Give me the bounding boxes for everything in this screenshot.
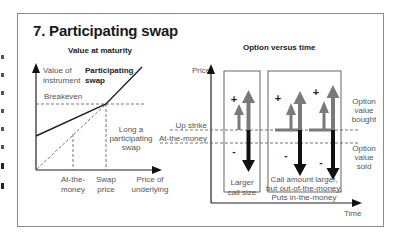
strike-bar	[275, 129, 301, 132]
box1-caption-1: Larger	[230, 178, 253, 187]
annotation-line-1: Long a	[119, 125, 144, 134]
box2-caption-1: Call amount larger,	[270, 175, 337, 184]
option-heading: Option versus time	[243, 43, 316, 52]
bought-arrow-icon	[294, 91, 307, 104]
bought-arrow-icon	[242, 90, 255, 103]
annotation-line-3: swap	[122, 143, 141, 152]
x-tick-atm-2: money	[61, 185, 85, 194]
bought-arrow-icon	[327, 85, 340, 98]
x-axis-arrow-icon	[152, 166, 162, 174]
payoff-chart: Value at maturity Value of instrument Pa…	[32, 46, 168, 194]
x-axis-label-1: Price of	[136, 175, 164, 184]
x-tick-atm-1: At-the-	[61, 175, 85, 184]
x-tick-swap-2: price	[97, 185, 115, 194]
annotation-line-2: participating	[109, 134, 152, 143]
bought-arrow-shaft	[323, 112, 326, 130]
payoff-heading: Value at maturity	[68, 46, 133, 55]
underlying-line	[37, 104, 106, 169]
sold-arrow-shaft	[331, 130, 335, 169]
legend-sold-1: Option	[352, 144, 376, 153]
legend-bought-2: value	[354, 106, 374, 115]
minus-sign: -	[232, 146, 235, 157]
x-axis-label-2: underlying	[132, 185, 169, 194]
series-label-1: Participating	[85, 66, 134, 75]
diagram-canvas: Value at maturity Value of instrument Pa…	[0, 0, 395, 237]
up-strike-label: Up strike	[175, 121, 207, 130]
sold-arrow-shaft	[298, 130, 302, 165]
minus-sign: -	[319, 157, 322, 168]
y-axis-label-2: instrument	[43, 76, 81, 85]
atm-label: At-the-money	[159, 134, 207, 143]
y-axis-label-1: Value of	[43, 66, 73, 75]
plus-sign: +	[231, 93, 237, 105]
time-axis-label: Time	[344, 209, 362, 218]
x-tick-swap-1: Swap	[96, 175, 117, 184]
legend-bought-3: bought	[352, 115, 377, 124]
box1-caption-2: call size	[228, 188, 257, 197]
box2-caption-3: Puts in-the-money	[272, 193, 337, 202]
plus-sign: +	[275, 92, 281, 104]
sold-arrow-icon	[242, 160, 255, 172]
legend-sold-3: sold	[357, 162, 372, 171]
bought-arrow-shaft	[331, 97, 335, 130]
larger-call-size-box	[224, 71, 260, 192]
sold-arrow-shaft	[247, 130, 251, 161]
legend-sold-2: value	[354, 153, 374, 162]
minus-sign: -	[284, 150, 287, 161]
bought-arrow-shaft	[247, 102, 251, 130]
bought-arrow-icon	[319, 101, 329, 113]
box2-caption-2: but out-of-the-money,	[266, 184, 342, 193]
bought-arrow-shaft	[298, 103, 302, 130]
series-label-2: swap	[85, 76, 105, 85]
bought-arrow-icon	[234, 104, 244, 115]
bought-arrow-shaft	[290, 114, 293, 130]
bought-arrow-icon	[286, 103, 296, 115]
bought-arrow-shaft	[238, 114, 241, 130]
plus-sign: +	[313, 86, 319, 98]
y-axis-arrow-icon	[32, 63, 40, 73]
time-axis-arrow-icon	[352, 199, 362, 207]
legend-bought-1: Option	[352, 97, 376, 106]
breakeven-label: Breakeven	[44, 92, 82, 101]
option-time-chart: Option versus time Price Time Up strike …	[159, 43, 377, 218]
